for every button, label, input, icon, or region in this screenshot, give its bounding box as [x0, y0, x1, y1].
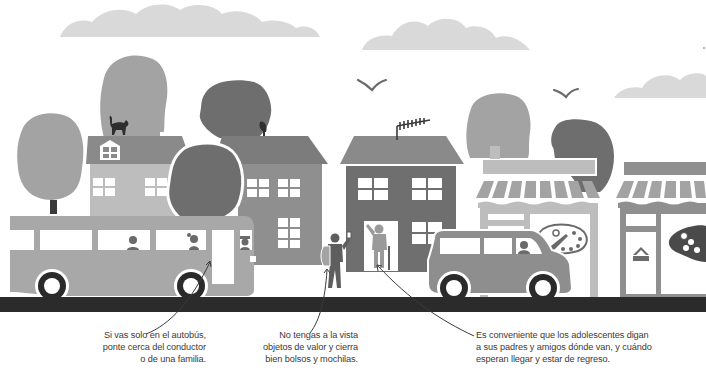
- bird-icon: [554, 89, 578, 97]
- caption-line: esperan llegar y estar de regreso.: [476, 353, 706, 365]
- caption-line: o de una familia.: [30, 353, 206, 365]
- cloud-middle: [362, 19, 530, 50]
- caption-line: Si vas solo en el autobús,: [30, 329, 206, 341]
- caption-line: ponte cerca del conductor: [30, 341, 206, 353]
- caption-bus-safety: Si vas solo en el autobús, ponte cerca d…: [30, 329, 206, 365]
- caption-line: No tengas a la vista: [208, 329, 358, 341]
- tree-icon: [200, 80, 271, 138]
- tree-icon: [100, 55, 167, 138]
- tree-icon: [17, 113, 83, 200]
- game-shop: [616, 162, 706, 300]
- caption-valuables-safety: No tengas a la vista objetos de valor y …: [208, 329, 358, 365]
- roof: [340, 136, 464, 164]
- street-scene-illustration: [0, 0, 706, 373]
- cloud-right: [614, 73, 706, 98]
- home-sign-icon: [633, 247, 649, 261]
- awning: [616, 181, 706, 198]
- tree-trunk: [50, 200, 57, 214]
- caption-line: objetos de valor y cierra: [208, 341, 358, 353]
- caption-line: Es conveniente que los adolescentes diga…: [476, 329, 706, 341]
- bird-icon: [703, 47, 705, 49]
- road: [0, 297, 706, 312]
- bird-icon: [358, 80, 386, 90]
- game-controller-icon: [669, 225, 706, 262]
- cloud-large: [60, 4, 320, 37]
- caption-line: bien bolsos y mochilas.: [208, 353, 358, 365]
- bus: [10, 216, 256, 303]
- tree-icon: [168, 143, 243, 222]
- caption-line: a sus padres y amigos dónde van, y cuánd…: [476, 341, 706, 353]
- caption-teens-safety: Es conveniente que los adolescentes diga…: [476, 329, 706, 365]
- bus-door: [212, 230, 234, 284]
